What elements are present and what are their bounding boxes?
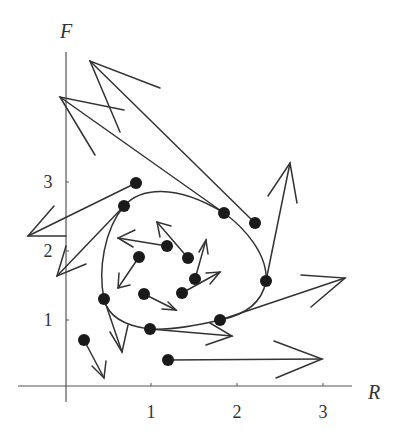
vector-arrow: [182, 272, 220, 293]
vector-arrow: [157, 222, 188, 258]
x-ticks: 123: [147, 383, 328, 422]
phase-plane-chart: 123 123 R F: [0, 0, 397, 440]
arrowhead-icon: [60, 97, 124, 155]
arrow-shaft: [60, 97, 224, 213]
data-point: [98, 293, 110, 305]
arrowhead-icon: [28, 206, 66, 236]
vector-arrow: [60, 97, 224, 213]
data-point: [161, 240, 173, 252]
vector-arrow: [220, 275, 345, 320]
arrow-shaft: [157, 222, 188, 258]
y-tick-label: 3: [44, 172, 53, 192]
arrow-shaft: [195, 240, 206, 279]
x-tick-label: 3: [319, 402, 328, 422]
vector-arrow: [266, 163, 297, 281]
data-point: [182, 252, 194, 264]
arrow-shaft: [150, 329, 232, 336]
data-point: [162, 354, 174, 366]
data-point: [78, 334, 90, 346]
data-point: [249, 217, 261, 229]
vector-arrow: [90, 61, 255, 223]
sample-points: [78, 177, 272, 366]
data-point: [144, 323, 156, 335]
x-tick-label: 1: [147, 402, 156, 422]
vector-arrows: [28, 61, 345, 378]
vector-arrow: [84, 340, 106, 378]
x-tick-label: 2: [233, 402, 242, 422]
data-point: [218, 207, 230, 219]
arrow-shaft: [182, 272, 220, 293]
arrow-shaft: [104, 299, 122, 352]
data-point: [189, 273, 201, 285]
y-tick-label: 2: [44, 241, 53, 261]
data-point: [130, 177, 142, 189]
data-point: [133, 251, 145, 263]
y-tick-label: 1: [44, 310, 53, 330]
arrowhead-icon: [110, 325, 128, 352]
vector-arrow: [168, 341, 322, 378]
arrow-shaft: [220, 278, 345, 320]
data-point: [214, 314, 226, 326]
arrow-shaft: [84, 340, 104, 378]
x-axis-label: R: [367, 381, 380, 403]
data-point: [176, 287, 188, 299]
data-point: [260, 275, 272, 287]
data-point: [118, 200, 130, 212]
data-point: [138, 288, 150, 300]
arrow-shaft: [168, 359, 322, 360]
y-axis-label: F: [59, 20, 73, 42]
axes: [18, 52, 352, 402]
arrow-shaft: [90, 61, 255, 223]
